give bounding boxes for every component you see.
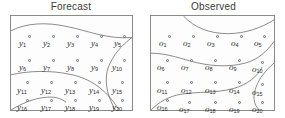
point-label-o10: o10 — [252, 65, 263, 75]
point-label-base: y16 — [17, 102, 27, 112]
circle-marker-icon — [190, 59, 193, 62]
point-label-base: o17 — [179, 104, 190, 114]
point-label-base: o6 — [157, 62, 165, 72]
point-label-subscript: 2 — [47, 42, 50, 48]
point-label-base: y2 — [43, 38, 50, 48]
circle-marker-icon — [100, 59, 103, 62]
point-label-o14: o14 — [229, 86, 240, 96]
point-label-y18: y18 — [65, 103, 75, 113]
point-label-base: y7 — [43, 62, 50, 72]
point-label-base: y13 — [65, 85, 75, 95]
contour-line — [183, 16, 274, 34]
point-label-o17: o17 — [179, 105, 190, 115]
circle-marker-icon — [263, 35, 266, 38]
circle-marker-icon — [123, 59, 126, 62]
point-label-subscript: 4 — [236, 42, 239, 48]
point-label-base: y4 — [91, 38, 98, 48]
point-label-subscript: 9 — [95, 66, 98, 72]
point-label-y3: y3 — [67, 39, 74, 49]
point-label-y2: y2 — [43, 39, 50, 49]
figure-root: Forecast y1y2y3y4y5y6y7y8y9y10y11y12y13y… — [0, 0, 285, 118]
circle-marker-icon — [76, 35, 79, 38]
point-label-subscript: 6 — [23, 66, 26, 72]
point-label-subscript: 19 — [234, 108, 240, 114]
point-label-y8: y8 — [67, 63, 74, 73]
point-label-base: y1 — [19, 38, 26, 48]
point-label-o20: o20 — [252, 105, 263, 115]
circle-marker-icon — [261, 83, 264, 86]
point-label-subscript: 18 — [69, 106, 75, 112]
circle-marker-icon — [50, 81, 53, 84]
point-label-y11: y11 — [17, 86, 27, 96]
circle-marker-icon — [76, 59, 79, 62]
point-label-o13: o13 — [205, 86, 216, 96]
point-label-base: y10 — [112, 62, 122, 72]
point-label-o18: o18 — [205, 105, 216, 115]
circle-marker-icon — [168, 35, 171, 38]
point-label-o9: o9 — [229, 63, 237, 73]
point-label-o3: o3 — [207, 39, 215, 49]
point-label-subscript: 15 — [257, 91, 263, 97]
panel-title-observed: Observed — [142, 1, 285, 12]
point-label-base: y15 — [112, 85, 122, 95]
point-label-base: o18 — [205, 104, 216, 114]
point-label-subscript: 20 — [116, 106, 122, 112]
point-label-y6: y6 — [19, 63, 26, 73]
point-label-base: o14 — [229, 85, 240, 95]
circle-marker-icon — [214, 81, 217, 84]
circle-marker-icon — [216, 35, 219, 38]
circle-marker-icon — [100, 35, 103, 38]
plot-area-observed: o1o2o3o4o5o6o7o8o9o10o11o12o13o14o15o16o… — [150, 15, 275, 111]
point-label-base: o4 — [231, 38, 239, 48]
point-label-base: y19 — [89, 102, 99, 112]
point-label-o7: o7 — [181, 63, 189, 73]
point-label-base: o10 — [252, 64, 263, 74]
point-label-subscript: 9 — [234, 66, 237, 72]
point-label-base: o2 — [183, 38, 191, 48]
circle-marker-icon — [240, 35, 243, 38]
point-label-subscript: 7 — [47, 66, 50, 72]
point-label-subscript: 14 — [234, 89, 240, 95]
point-label-base: y18 — [65, 102, 75, 112]
circle-marker-icon — [74, 81, 77, 84]
point-label-y12: y12 — [41, 86, 51, 96]
point-label-y10: y10 — [112, 63, 122, 73]
circle-marker-icon — [28, 35, 31, 38]
point-label-y13: y13 — [65, 86, 75, 96]
point-label-base: o3 — [207, 38, 215, 48]
point-label-base: y14 — [89, 85, 99, 95]
circle-marker-icon — [28, 59, 31, 62]
point-label-o15: o15 — [252, 88, 263, 98]
point-label-subscript: 17 — [45, 106, 51, 112]
point-label-subscript: 2 — [188, 42, 191, 48]
point-label-base: y9 — [91, 62, 98, 72]
circle-marker-icon — [238, 59, 241, 62]
point-label-subscript: 5 — [118, 42, 121, 48]
point-label-o12: o12 — [181, 86, 192, 96]
point-label-o19: o19 — [229, 105, 240, 115]
point-label-base: o9 — [229, 62, 237, 72]
point-label-o1: o1 — [159, 39, 167, 49]
point-label-y14: y14 — [89, 86, 99, 96]
point-label-subscript: 16 — [21, 106, 27, 112]
point-label-subscript: 1 — [164, 42, 167, 48]
point-label-base: o1 — [159, 38, 167, 48]
point-label-subscript: 13 — [210, 89, 216, 95]
point-label-subscript: 8 — [210, 66, 213, 72]
circle-marker-icon — [190, 81, 193, 84]
point-label-subscript: 1 — [23, 42, 26, 48]
point-label-subscript: 12 — [45, 89, 51, 95]
point-label-y15: y15 — [112, 86, 122, 96]
point-label-y20: y20 — [112, 103, 122, 113]
point-label-subscript: 6 — [162, 66, 165, 72]
plot-area-forecast: y1y2y3y4y5y6y7y8y9y10y11y12y13y14y15y16y… — [10, 15, 133, 111]
point-label-subscript: 7 — [186, 66, 189, 72]
point-label-base: y17 — [41, 102, 51, 112]
point-label-subscript: 14 — [93, 89, 99, 95]
point-label-base: o20 — [252, 104, 263, 114]
point-label-base: o15 — [252, 87, 263, 97]
point-label-base: o11 — [157, 85, 167, 95]
point-label-base: y12 — [41, 85, 51, 95]
point-label-subscript: 16 — [162, 106, 168, 112]
circle-marker-icon — [214, 59, 217, 62]
